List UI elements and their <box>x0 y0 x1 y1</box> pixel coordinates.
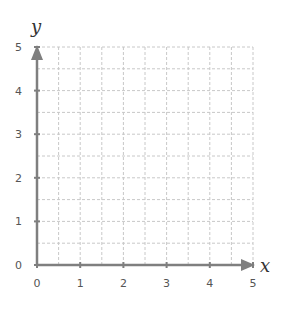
y-tick-labels: 012345 <box>15 41 22 272</box>
y-tick-label: 2 <box>15 172 22 185</box>
x-tick-label: 3 <box>163 277 170 290</box>
y-tick-label: 1 <box>15 215 22 228</box>
x-tick-label: 4 <box>206 277 213 290</box>
grid-lines <box>37 47 253 265</box>
axis-ticks <box>34 47 253 268</box>
x-axis-arrow-icon <box>241 259 255 271</box>
y-axis-label: y <box>30 16 42 37</box>
x-tick-label: 1 <box>77 277 84 290</box>
y-tick-label: 5 <box>15 41 22 54</box>
coordinate-plane: 012345 012345 x y <box>0 0 286 309</box>
x-axis-label: x <box>260 255 270 276</box>
y-tick-label: 0 <box>15 259 22 272</box>
y-tick-label: 4 <box>15 85 22 98</box>
x-tick-label: 0 <box>34 277 41 290</box>
x-tick-labels: 012345 <box>34 277 257 290</box>
y-tick-label: 3 <box>15 128 22 141</box>
y-axis-arrow-icon <box>31 45 43 60</box>
x-tick-label: 5 <box>250 277 257 290</box>
x-tick-label: 2 <box>120 277 127 290</box>
